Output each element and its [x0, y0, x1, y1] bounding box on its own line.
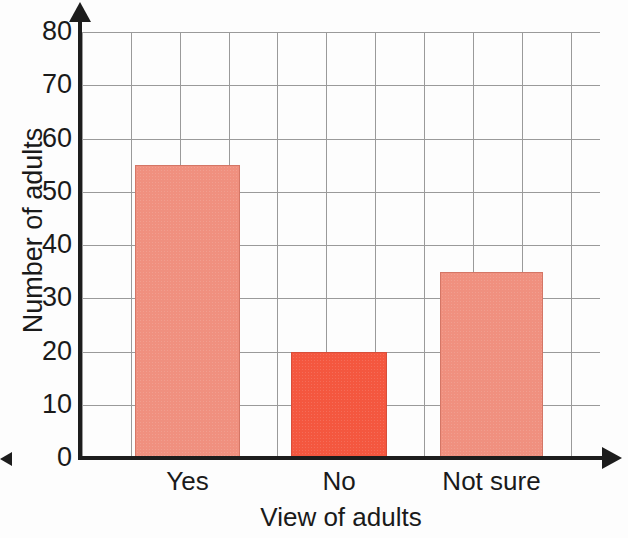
gridline-x-4	[277, 32, 278, 458]
bar-not-sure	[440, 272, 543, 458]
page-edge-arrow-icon	[0, 452, 12, 466]
bar-chart-figure: 01020304050607080 YesNoNot sure Number o…	[0, 0, 628, 538]
x-axis-title: View of adults	[82, 502, 600, 533]
plot-area	[82, 32, 600, 458]
x-tick-label-not-sure: Not sure	[382, 468, 602, 494]
bar-texture	[136, 166, 239, 457]
y-tick-label-10: 10	[12, 391, 72, 418]
bar-texture	[441, 273, 542, 457]
gridline-x-0	[82, 32, 83, 458]
bar-texture	[292, 353, 386, 458]
x-axis-line	[78, 456, 605, 460]
y-axis-title: Number of adults	[18, 81, 49, 381]
y-tick-label-80: 80	[12, 18, 72, 45]
gridline-x-1	[131, 32, 132, 458]
gridline-x-7	[424, 32, 425, 458]
bar-yes	[135, 165, 240, 458]
gridline-x-10	[571, 32, 572, 458]
y-axis-line	[78, 18, 82, 460]
y-axis-arrowhead	[69, 2, 91, 22]
bar-no	[291, 352, 387, 459]
y-tick-label-0: 0	[12, 444, 72, 471]
x-axis-arrowhead	[602, 447, 622, 469]
